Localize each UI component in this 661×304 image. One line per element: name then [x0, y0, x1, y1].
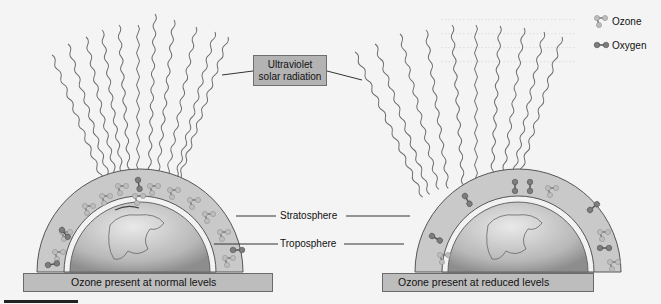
uv-radiation-label: Ultraviolet solar radiation: [253, 55, 327, 86]
legend-oxygen-label: Oxygen: [612, 40, 646, 52]
uv-label-line-1: Ultraviolet: [254, 59, 326, 71]
ozone-diagram-illustration: [0, 0, 661, 304]
figure-number-bar: [4, 300, 78, 303]
caption-normal-levels: Ozone present at normal levels: [23, 273, 273, 292]
stratosphere-label: Stratosphere: [278, 210, 339, 222]
globe-normal: [37, 169, 245, 272]
caption-reduced-levels: Ozone present at reduced levels: [382, 273, 594, 292]
troposphere-label: Troposphere: [278, 238, 338, 250]
caption-normal-text: Ozone present at normal levels: [71, 276, 216, 288]
uv-label-line-2: solar radiation: [254, 71, 326, 83]
legend-ozone-icon: [594, 15, 607, 27]
legend-oxygen-icon: [594, 42, 609, 48]
caption-reduced-text: Ozone present at reduced levels: [398, 276, 549, 288]
legend-ozone-label: Ozone: [612, 16, 641, 28]
